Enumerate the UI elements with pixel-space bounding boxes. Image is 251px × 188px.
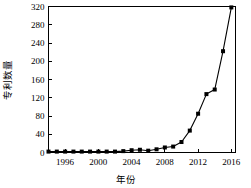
x-tick-label: 1996 — [56, 157, 75, 167]
data-point-marker — [63, 150, 67, 154]
data-series-patent-count — [47, 5, 234, 153]
y-axis-tick-labels: 04080120160200240280320 — [31, 2, 45, 158]
data-point-marker — [163, 145, 167, 149]
data-point-marker — [105, 150, 109, 154]
data-point-marker — [155, 147, 159, 151]
x-tick-label: 2000 — [89, 157, 108, 167]
data-point-marker — [229, 5, 233, 9]
data-point-marker — [179, 140, 183, 144]
data-point-marker — [71, 150, 75, 154]
data-point-marker — [47, 150, 51, 154]
data-point-marker — [88, 150, 92, 154]
data-point-marker — [80, 150, 84, 154]
data-point-marker — [221, 49, 225, 53]
chart-container: 04080120160200240280320 1996200020042008… — [0, 0, 251, 188]
patent-count-line-chart: 04080120160200240280320 1996200020042008… — [0, 0, 251, 188]
x-tick-label: 2016 — [222, 157, 241, 167]
data-point-marker — [121, 149, 125, 153]
y-tick-label: 160 — [31, 75, 45, 85]
data-point-marker — [96, 150, 100, 154]
y-tick-label: 120 — [31, 93, 45, 103]
y-tick-label: 320 — [31, 2, 45, 12]
data-point-marker — [188, 129, 192, 133]
series-line-patent-count — [49, 7, 232, 151]
x-axis-tick-labels: 199620002004200820122016 — [56, 157, 241, 167]
data-point-marker — [55, 150, 59, 154]
data-point-marker — [196, 112, 200, 116]
y-tick-label: 80 — [36, 111, 46, 121]
y-tick-label: 240 — [31, 38, 45, 48]
y-tick-label: 0 — [40, 148, 45, 158]
data-point-marker — [138, 148, 142, 152]
x-axis-title: 年份 — [116, 174, 136, 185]
plot-frame — [49, 7, 236, 153]
y-tick-label: 40 — [36, 129, 46, 139]
data-point-marker — [204, 92, 208, 96]
y-tick-label: 200 — [31, 56, 45, 66]
x-tick-label: 2008 — [156, 157, 175, 167]
data-point-marker — [130, 148, 134, 152]
data-point-marker — [113, 150, 117, 154]
y-axis-title: 专利数量 — [2, 60, 13, 100]
data-point-marker — [213, 88, 217, 92]
data-point-marker — [146, 149, 150, 153]
y-tick-label: 280 — [31, 20, 45, 30]
data-point-marker — [171, 145, 175, 149]
y-axis-ticks — [49, 7, 53, 153]
x-tick-label: 2004 — [123, 157, 142, 167]
x-tick-label: 2012 — [189, 157, 207, 167]
